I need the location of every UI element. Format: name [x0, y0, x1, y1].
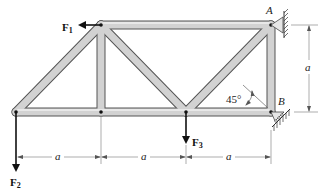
label-a: A [265, 4, 273, 16]
joint-bottom-vertical [99, 110, 103, 114]
angle-indicator [243, 85, 268, 108]
force-f2-label: F2 [10, 176, 21, 190]
force-f1-label: F1 [62, 21, 73, 35]
label-b: B [278, 95, 285, 107]
dim-label-1: a [55, 150, 61, 162]
support-b-roller-icon [271, 109, 290, 131]
angle-label: 45° [226, 93, 241, 105]
dim-label-vertical: a [305, 61, 311, 73]
dim-label-3: a [226, 150, 232, 162]
truss-diagram: 45° A B F1 F2 F3 a a a a [0, 0, 329, 193]
dim-label-2: a [141, 150, 147, 162]
force-f3-label: F3 [192, 136, 203, 150]
